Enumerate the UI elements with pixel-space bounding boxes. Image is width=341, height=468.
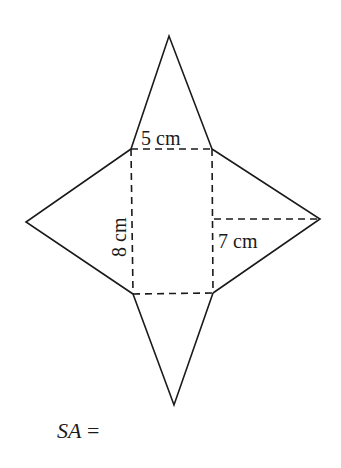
equals-sign: = xyxy=(87,418,99,443)
base-bottom-edge xyxy=(133,293,213,294)
sa-variable: SA xyxy=(57,418,81,443)
base-other-side-label: 8 cm xyxy=(108,217,130,257)
base-side-label: 5 cm xyxy=(141,127,181,149)
net-figure: 5 cm 8 cm 7 cm xyxy=(0,0,341,468)
base-left-edge xyxy=(131,149,133,294)
surface-area-prompt: SA = xyxy=(57,418,99,444)
right-triangle xyxy=(212,149,320,293)
slant-height-label: 7 cm xyxy=(218,230,258,252)
base-right-edge xyxy=(212,149,213,293)
bottom-triangle xyxy=(133,293,213,405)
